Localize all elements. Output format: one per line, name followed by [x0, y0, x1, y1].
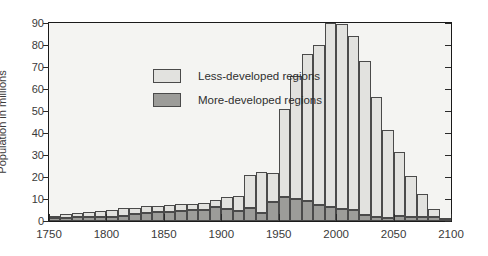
legend-item-more-developed: More-developed regions	[153, 91, 322, 109]
x-axis-tick	[451, 214, 452, 221]
x-axis-tick-label: 1800	[94, 228, 120, 240]
y-axis-title: Population in millions	[0, 70, 8, 173]
bar-segment-more-developed	[428, 217, 439, 221]
legend-swatch-less-developed-icon	[153, 69, 181, 83]
bar-stack	[106, 210, 117, 221]
bar-segment-less-developed	[336, 24, 347, 209]
bar-stack	[72, 213, 83, 221]
bar-stack	[221, 197, 232, 221]
bar-segment-less-developed	[221, 197, 232, 209]
bar-segment-more-developed	[152, 212, 163, 221]
bar-segment-less-developed	[382, 130, 393, 218]
bar-segment-more-developed	[279, 197, 290, 221]
bar-stack	[348, 36, 359, 221]
x-axis-tick	[279, 214, 280, 221]
x-axis-tick-label: 1850	[151, 228, 177, 240]
bar-segment-less-developed	[417, 194, 428, 217]
x-axis-tick-label: 1900	[208, 228, 234, 240]
bar-segment-more-developed	[336, 209, 347, 221]
bar-stack	[198, 203, 209, 221]
bar-segment-less-developed	[267, 173, 278, 202]
bar-segment-more-developed	[290, 199, 301, 221]
bar-segment-more-developed	[198, 210, 209, 221]
bar-segment-more-developed	[371, 217, 382, 221]
bar-segment-less-developed	[129, 208, 140, 215]
legend-swatch-more-developed-icon	[153, 93, 181, 107]
bar-stack	[141, 206, 152, 221]
population-growth-chart: Population in millions 01020304050607080…	[0, 0, 488, 256]
bar-segment-more-developed	[221, 209, 232, 221]
bar-segment-less-developed	[256, 172, 267, 213]
y-axis-tick-right	[445, 23, 451, 24]
y-axis-tick-label: 90	[32, 17, 44, 29]
bar-stack	[175, 204, 186, 221]
bar-segment-less-developed	[405, 176, 416, 218]
y-axis-tick-right	[445, 67, 451, 68]
bar-segment-more-developed	[394, 216, 405, 221]
bar-segment-more-developed	[348, 210, 359, 221]
y-axis-tick-label: 50	[32, 105, 44, 117]
bar-stack	[382, 130, 393, 221]
bar-segment-more-developed	[382, 218, 393, 221]
bar-stack	[49, 216, 60, 222]
x-axis-tick-label: 2100	[438, 228, 464, 240]
y-axis-tick-label: 60	[32, 83, 44, 95]
bar-segment-less-developed	[198, 203, 209, 210]
bar-stack	[118, 208, 129, 221]
y-axis-tick-right	[445, 111, 451, 112]
y-axis-tick-label: 20	[32, 171, 44, 183]
bar-segment-less-developed	[118, 208, 129, 216]
y-axis-tick-right	[445, 45, 451, 46]
bar-segment-less-developed	[348, 36, 359, 209]
bar-segment-more-developed	[325, 207, 336, 221]
plot-area: 0102030405060708090 17501800185019001950…	[48, 22, 452, 222]
bar-stack	[279, 109, 290, 221]
bar-segment-less-developed	[233, 196, 244, 211]
bar-segment-more-developed	[233, 211, 244, 221]
bar-segment-less-developed	[394, 152, 405, 216]
bar-stack	[187, 204, 198, 221]
y-axis-tick-label: 10	[32, 193, 44, 205]
bar-segment-less-developed	[279, 109, 290, 196]
bar-segment-more-developed	[72, 217, 83, 221]
bar-segment-more-developed	[141, 213, 152, 221]
bar-segment-more-developed	[417, 217, 428, 221]
bar-segment-less-developed	[175, 204, 186, 211]
x-axis-tick-label: 2000	[323, 228, 349, 240]
bar-stack	[129, 208, 140, 221]
bar-segment-more-developed	[95, 217, 106, 221]
bar-segment-more-developed	[313, 205, 324, 221]
bar-segment-more-developed	[49, 218, 60, 221]
legend-item-less-developed: Less-developed regions	[153, 67, 322, 85]
x-axis-tick	[49, 214, 50, 221]
bar-segment-less-developed	[359, 61, 370, 215]
bar-stack	[256, 172, 267, 221]
bar-segment-less-developed	[371, 97, 382, 217]
x-axis-tick-label: 2050	[381, 228, 407, 240]
y-axis-tick-right	[445, 89, 451, 90]
y-axis-tick-right	[445, 133, 451, 134]
y-axis-tick-right	[445, 155, 451, 156]
bar-stack	[83, 212, 94, 221]
bar-segment-less-developed	[141, 206, 152, 213]
bar-stack	[371, 97, 382, 221]
bars-layer	[49, 23, 451, 221]
y-axis-tick-label: 70	[32, 61, 44, 73]
bar-segment-less-developed	[210, 200, 221, 207]
bar-stack	[405, 176, 416, 221]
bar-stack	[417, 194, 428, 221]
bar-stack	[60, 214, 71, 221]
y-axis-tick-label: 30	[32, 149, 44, 161]
legend-label-less-developed: Less-developed regions	[198, 70, 320, 82]
bar-stack	[428, 209, 439, 221]
bar-segment-more-developed	[267, 202, 278, 221]
x-axis-tick	[106, 214, 107, 221]
y-axis-tick-right	[445, 221, 451, 222]
bar-segment-more-developed	[210, 207, 221, 221]
bar-stack	[359, 61, 370, 221]
legend-label-more-developed: More-developed regions	[198, 94, 322, 106]
bar-segment-more-developed	[187, 210, 198, 221]
bar-segment-more-developed	[60, 218, 71, 221]
bar-stack	[394, 152, 405, 221]
bar-stack	[164, 205, 175, 222]
